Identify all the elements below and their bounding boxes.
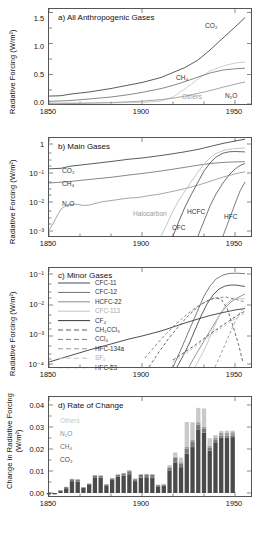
panel-d-ytick-0_01: 0.01 [14, 467, 44, 476]
panel-d-xtick-1850: 1850 [33, 499, 63, 508]
panel-c-curve-ccl4 [145, 297, 245, 358]
panel-d-legend-n2o: N₂O [60, 430, 72, 437]
panel-d-bar [121, 473, 125, 475]
panel-d-bar [190, 441, 194, 447]
panel-d-bar [76, 480, 80, 482]
panel-d-bar [144, 474, 148, 475]
panel-d-bar [53, 493, 57, 494]
panel-d-bar [87, 484, 91, 485]
panel-d-bar [127, 471, 131, 474]
panel-d-bar [70, 479, 74, 481]
panel-b-xtick-1900: 1900 [126, 239, 156, 248]
panel-d-bar [167, 465, 171, 467]
panel-b-plot-area [48, 137, 252, 237]
panel-a-curve-ch4 [49, 68, 245, 101]
panel-d-bar [219, 436, 223, 438]
panel-d-ylabel: Change in Radiative Forcing (W/m²) [6, 382, 23, 500]
panel-d-bar [179, 467, 183, 493]
panel-d-bar [179, 458, 183, 463]
panel-c-legend-hfc23: HFC-23 [95, 364, 117, 371]
panel-c-legend-cfc11: CFC-11 [95, 279, 117, 286]
panel-d-bar [219, 433, 223, 436]
panel-d-bar [58, 490, 62, 491]
panel-d-bar [196, 422, 200, 424]
panel-d-bar [173, 457, 177, 458]
panel-a-label-others: Others [182, 93, 202, 100]
panel-d-bar [213, 437, 217, 440]
panel-d-bar [185, 454, 189, 493]
panel-a-xtick-1850: 1850 [33, 107, 63, 116]
panel-b-label-n2o: N₂O [62, 200, 74, 207]
panel-d-bar [139, 474, 143, 475]
panel-d-bar [93, 477, 97, 493]
panel-b-curve-hfc [223, 182, 245, 236]
panel-d-bar [81, 488, 85, 493]
panel-d-bar [133, 481, 137, 493]
panel-d-bar [150, 478, 154, 493]
panel-d-bar [116, 475, 120, 477]
panel-a-label-n2o: N₂O [225, 92, 237, 99]
panel-d-bar [64, 487, 68, 488]
panel-d-bar [196, 430, 200, 493]
panel-d-bar [173, 458, 177, 463]
panel-d-bar [231, 437, 235, 493]
panel-d-bar [225, 438, 229, 493]
panel-d-bar [104, 485, 108, 493]
panel-d-bar [144, 475, 148, 478]
panel-d-bar [213, 442, 217, 493]
panel-b-xtick-1950: 1950 [219, 239, 249, 248]
panel-c-curve-hcfc22 [189, 294, 245, 367]
panel-c-xtick-1900: 1900 [126, 370, 156, 379]
panel-c-curve-hfc23 [173, 311, 245, 360]
panel-c-legend-hcfc22: HCFC-22 [95, 298, 122, 305]
panel-d-bar [185, 447, 189, 449]
panel-d-bar [225, 436, 229, 438]
panel-d-bar [208, 446, 212, 448]
panel-a-xtick-1900: 1900 [126, 107, 156, 116]
panel-a-ytick-0_0: 0.0 [20, 98, 44, 107]
panel-d-bar [190, 439, 194, 441]
panel-d-xtick-1950: 1950 [219, 499, 249, 508]
panel-a-xtick-1950: 1950 [219, 107, 249, 116]
panel-d-bar [93, 475, 97, 477]
panel-c-legend-sf6: SF₆ [95, 354, 106, 361]
panel-d-bar [76, 482, 80, 493]
panel-c-legend-hfc134a: HFC-134a [95, 345, 124, 352]
panel-d-legend-others: Others [60, 417, 80, 424]
panel-d-bar [219, 438, 223, 493]
panel-c-curve-ch3ccl3 [149, 298, 243, 367]
panel-d-bar [58, 491, 62, 493]
panel-d-ytick-0_03: 0.03 [14, 423, 44, 432]
panel-a-curve-others [49, 62, 245, 103]
panel-d-bar [99, 478, 103, 493]
panel-d-xtick-1900: 1900 [126, 499, 156, 508]
panel-d-bar [70, 481, 74, 493]
panel-b-label-cfc: CFC [172, 224, 186, 231]
panel-d-bar [144, 477, 148, 493]
panel-c-ytick-1e-4: 10⁻⁴ [16, 360, 44, 369]
panel-d-bar [167, 470, 171, 493]
panel-d-bar [179, 462, 183, 463]
panel-d-bars [49, 397, 251, 496]
panel-a-ytick-1_0: 1.0 [20, 42, 44, 51]
panel-d-bar [139, 475, 143, 478]
panel-b-xtick-1850: 1850 [33, 239, 63, 248]
panel-a-label-co2: CO₂ [205, 22, 217, 29]
panel-d-bar [133, 479, 137, 481]
panel-d-bar [208, 448, 212, 451]
panel-d-bar [121, 476, 125, 493]
panel-d-ytick-0_04: 0.04 [14, 401, 44, 410]
panel-d-bar [110, 480, 114, 493]
panel-d-bar [231, 435, 235, 437]
panel-d-bar [202, 408, 206, 426]
panel-c-curve-cfc11 [177, 285, 245, 367]
panel-d-bar [225, 433, 229, 436]
panel-d-bar [104, 484, 108, 485]
panel-c-legend-ccl4: CCl₄ [95, 335, 108, 342]
panel-d-bar [231, 431, 235, 433]
panel-d-bar [202, 427, 206, 429]
panel-c-ytick-1e-3: 10⁻³ [16, 330, 44, 339]
panel-a-plot-area [48, 8, 252, 105]
panel-d-legend-co2: CO₂ [60, 456, 72, 463]
panel-d-bar [190, 422, 194, 439]
